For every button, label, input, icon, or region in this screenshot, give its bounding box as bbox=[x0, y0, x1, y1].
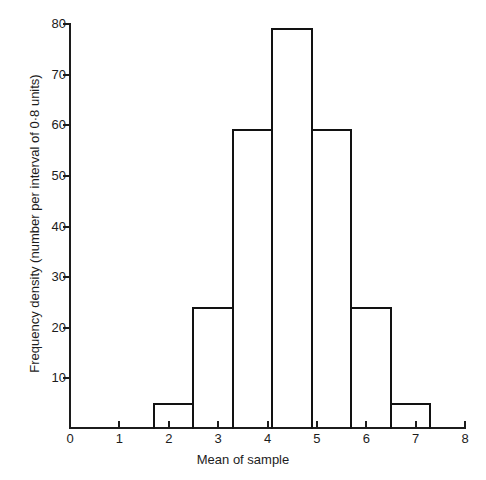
plot-area: 80 70 60 50 40 30 20 10 0 1 2 3 4 5 6 7 … bbox=[0, 0, 486, 480]
x-tick-label-4: 4 bbox=[253, 432, 283, 446]
histogram-bar bbox=[232, 129, 274, 429]
histogram-bar bbox=[390, 403, 432, 429]
x-tick-label-5: 5 bbox=[302, 432, 332, 446]
x-tick-label-3: 3 bbox=[203, 432, 233, 446]
x-axis-title: Mean of sample bbox=[0, 452, 486, 467]
x-tick-label-7: 7 bbox=[401, 432, 431, 446]
x-tick-8 bbox=[464, 421, 466, 428]
x-tick-label-6: 6 bbox=[351, 432, 381, 446]
histogram-figure: 80 70 60 50 40 30 20 10 0 1 2 3 4 5 6 7 … bbox=[0, 0, 486, 480]
x-tick-label-8: 8 bbox=[450, 432, 480, 446]
histogram-bar bbox=[350, 307, 392, 430]
histogram-bar bbox=[271, 28, 313, 429]
histogram-bar bbox=[153, 403, 195, 429]
x-tick-label-2: 2 bbox=[154, 432, 184, 446]
x-tick-1 bbox=[118, 421, 120, 428]
histogram-bar bbox=[311, 129, 353, 429]
histogram-bar bbox=[192, 307, 234, 430]
x-tick-label-1: 1 bbox=[104, 432, 134, 446]
x-tick-label-0: 0 bbox=[55, 432, 85, 446]
y-axis-title: Frequency density (number per interval o… bbox=[27, 14, 42, 434]
